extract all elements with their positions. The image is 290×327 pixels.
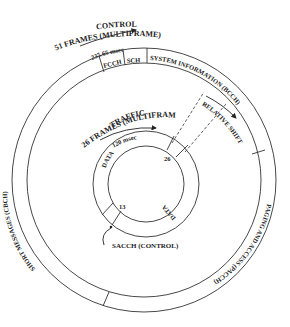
traffic-ring-outer: [93, 131, 199, 237]
paging-access-label: PAGING AND ACCESS (PACCH): [212, 204, 273, 287]
control-multiframe-ring: [12, 48, 276, 312]
sacch-pointer-dot: [110, 226, 113, 229]
divider-sysinfo-paging: [252, 150, 265, 154]
sch-label: SCH: [127, 56, 141, 64]
sacch-pointer-line: [103, 228, 111, 245]
slot-26-number: 26: [164, 155, 171, 162]
traffic-ring-inner: [108, 146, 184, 222]
divider-paging-short: [103, 292, 109, 306]
control-ring-outer: [12, 48, 276, 312]
sacch-label: SACCH (CONTROL): [112, 242, 179, 250]
traffic-frames-label: 26 FRAMES (MULTIFRAME): [0, 0, 176, 150]
control-ring-inner: [27, 63, 261, 297]
slot-13-divider-b: [112, 211, 121, 225]
gsm-multiframe-diagram: CONTROL 51 FRAMES (MULTIFRAME) 235.65 ms…: [0, 0, 290, 327]
traffic-multiframe-ring: [93, 131, 199, 237]
short-messages-label: SHORT MESSAGES (CBCH): [1, 191, 36, 272]
slot-13-number: 13: [119, 203, 126, 210]
control-frames-label: 51 FRAMES (MULTIFRAME): [53, 29, 162, 52]
slot-26-divider-a: [167, 136, 174, 150]
data-label-lower: DATA: [160, 204, 177, 222]
diagram-canvas: CONTROL 51 FRAMES (MULTIFRAME) 235.65 ms…: [0, 0, 290, 327]
slot-13-divider-a: [102, 203, 113, 215]
